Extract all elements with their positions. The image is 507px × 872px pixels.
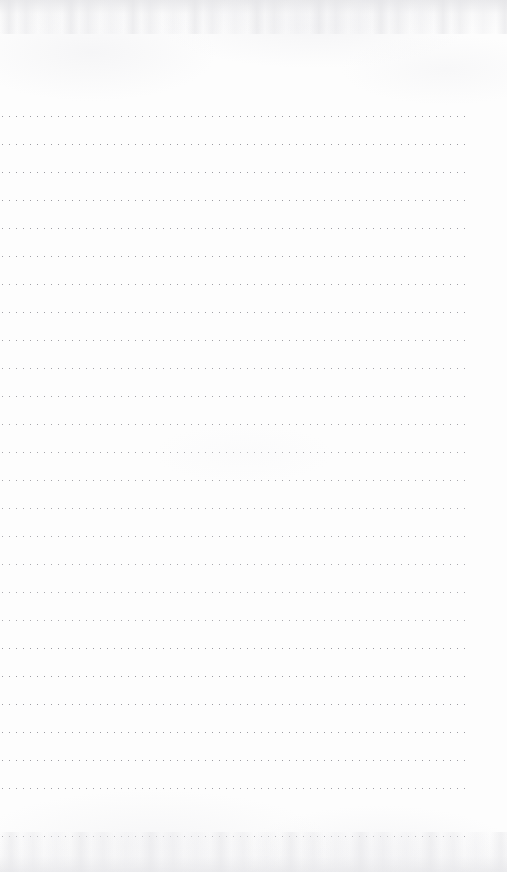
ruling-line: [2, 788, 470, 789]
ruling-line: [2, 228, 470, 229]
ruling-line: [2, 396, 470, 397]
ruling-line: [2, 676, 470, 677]
ruling-line: [2, 536, 470, 537]
ruling-line: [2, 480, 470, 481]
ruling-line: [2, 760, 470, 761]
ruling-line: [2, 284, 470, 285]
ruling-line: [2, 368, 470, 369]
ruling-line: [2, 836, 470, 837]
ruling-line: [2, 424, 470, 425]
ruling-line: [2, 256, 470, 257]
ruling-line: [2, 704, 470, 705]
ruling-line: [2, 452, 470, 453]
ruling-line: [2, 200, 470, 201]
ruling-line: [2, 620, 470, 621]
ruling-line: [2, 648, 470, 649]
ruling-line: [2, 340, 470, 341]
ruling-line: [2, 312, 470, 313]
ruling-line: [2, 564, 470, 565]
ruling-line: [2, 116, 470, 117]
dotted-ruling-lines: [0, 0, 507, 872]
ruling-line: [2, 144, 470, 145]
ruling-line: [2, 508, 470, 509]
ruling-line: [2, 592, 470, 593]
ruling-line: [2, 732, 470, 733]
ruling-line: [2, 172, 470, 173]
scanned-page: [0, 0, 507, 872]
